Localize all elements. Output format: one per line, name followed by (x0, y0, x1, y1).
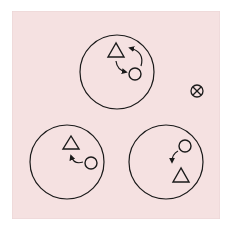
diagram-panel (12, 11, 220, 219)
diagram-canvas (12, 11, 220, 219)
